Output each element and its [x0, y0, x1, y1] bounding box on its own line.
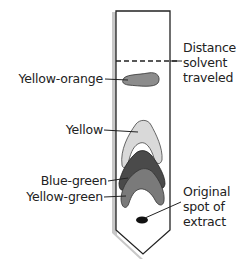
- chromatography-diagram: Distance solvent traveled Yellow-orange …: [0, 0, 236, 259]
- label-solvent-line-2: solvent: [183, 55, 227, 70]
- label-origin-line-3: extract: [183, 214, 226, 229]
- label-solvent-line-3: traveled: [183, 70, 233, 85]
- label-blue-green: Blue-green: [41, 173, 107, 188]
- label-origin-line-2: spot of: [183, 199, 225, 214]
- label-yellow: Yellow: [66, 122, 103, 137]
- label-origin-line-1: Original: [183, 184, 230, 199]
- label-solvent-line-1: Distance: [183, 40, 236, 55]
- label-yellow-green: Yellow-green: [26, 189, 103, 204]
- label-yellow-orange: Yellow-orange: [18, 71, 103, 86]
